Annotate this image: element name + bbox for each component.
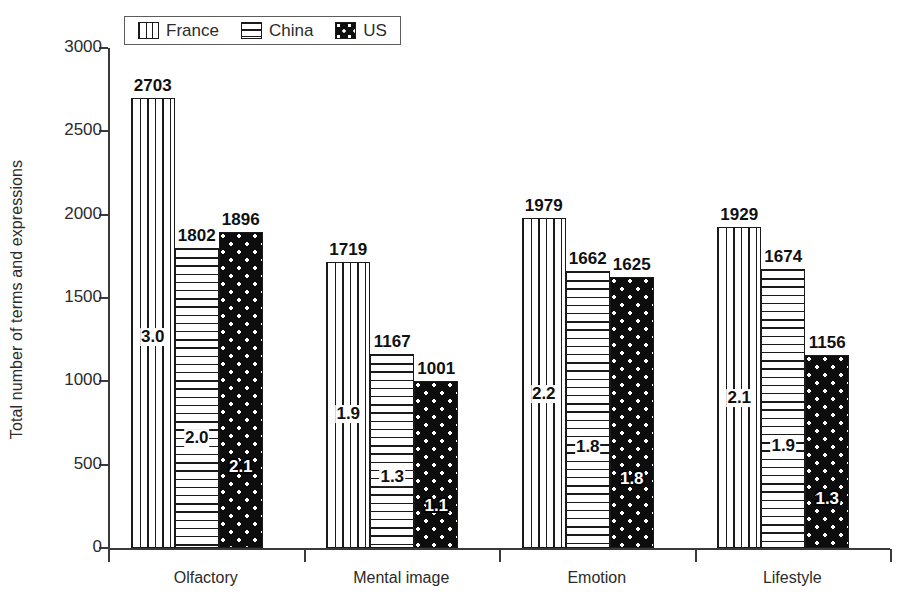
bar-us-lifestyle[interactable]: 11561.3 [805, 355, 849, 548]
bar-china-lifestyle[interactable]: 16741.9 [761, 269, 805, 548]
x-axis-label-lifestyle: Lifestyle [763, 569, 822, 587]
y-axis-tick-label: 1000 [64, 370, 102, 390]
bar-ratio-label: 2.1 [726, 389, 752, 407]
bar-ratio-label: 2.0 [184, 429, 210, 447]
bar-value-label: 1001 [417, 359, 455, 379]
bar-value-label: 1929 [720, 205, 758, 225]
bar-france-lifestyle[interactable]: 19292.1 [717, 227, 761, 549]
horizontal-stripes-icon [241, 22, 262, 39]
bar-ratio-label: 1.9 [770, 437, 796, 455]
x-axis-tick-mark [304, 549, 306, 562]
bar-france-mental-image[interactable]: 17191.9 [326, 262, 370, 549]
x-axis-label-mental-image: Mental image [353, 569, 449, 587]
bar-us-mental-image[interactable]: 10011.1 [414, 381, 458, 548]
y-axis-tick-label: 1500 [64, 287, 102, 307]
x-axis-tick-mark [108, 549, 110, 562]
bar-value-label: 1979 [525, 196, 563, 216]
bar-chart: Total number of terms and expressions 05… [0, 0, 904, 599]
bar-china-olfactory[interactable]: 18022.0 [175, 248, 219, 548]
bar-china-mental-image[interactable]: 11671.3 [370, 354, 414, 549]
bar-france-olfactory[interactable]: 27033.0 [131, 98, 175, 549]
y-axis-line [108, 48, 110, 548]
x-axis-label-olfactory: Olfactory [174, 569, 238, 587]
bar-ratio-label: 2.2 [531, 385, 557, 403]
bar-ratio-label: 1.3 [814, 490, 840, 508]
legend-entry-france[interactable]: France [138, 21, 219, 41]
bar-value-label: 2703 [134, 76, 172, 96]
bar-value-label: 1674 [764, 247, 802, 267]
bar-value-label: 1896 [222, 210, 260, 230]
bar-ratio-label: 1.8 [619, 470, 645, 488]
vertical-stripes-icon [138, 22, 159, 39]
bar-ratio-label: 3.0 [140, 328, 166, 346]
chart-legend: FranceChinaUS [124, 16, 401, 45]
bar-us-emotion[interactable]: 16251.8 [610, 277, 654, 548]
bar-value-label: 1662 [569, 249, 607, 269]
bar-value-label: 1167 [374, 332, 411, 352]
legend-entry-us[interactable]: US [335, 21, 387, 41]
bar-us-olfactory[interactable]: 18962.1 [219, 232, 263, 548]
x-axis-tick-mark [695, 549, 697, 562]
bar-ratio-label: 2.1 [228, 458, 254, 476]
bar-value-label: 1625 [613, 255, 651, 275]
y-axis-tick-label: 0 [93, 537, 102, 557]
y-axis-tick-label: 2500 [64, 120, 102, 140]
legend-entry-china[interactable]: China [241, 21, 313, 41]
bar-ratio-label: 1.1 [423, 497, 449, 515]
legend-label: China [269, 21, 313, 41]
bar-value-label: 1802 [178, 226, 216, 246]
y-axis-tick-label: 2000 [64, 204, 102, 224]
plot-area: 050010001500200025003000 27033.018022.01… [108, 48, 890, 548]
bar-value-label: 1719 [329, 240, 367, 260]
bar-ratio-label: 1.8 [575, 438, 601, 456]
bar-france-emotion[interactable]: 19792.2 [522, 218, 566, 548]
legend-label: France [166, 21, 219, 41]
x-axis-label-emotion: Emotion [567, 569, 626, 587]
x-axis-tick-mark [890, 549, 892, 562]
black-dots-icon [335, 22, 356, 39]
x-axis-tick-mark [499, 549, 501, 562]
bar-value-label: 1156 [809, 333, 846, 353]
bar-ratio-label: 1.9 [335, 405, 361, 423]
y-axis-tick-label: 3000 [64, 37, 102, 57]
legend-label: US [363, 21, 387, 41]
y-axis-title: Total number of terms and expressions [0, 0, 34, 599]
y-axis-tick-label: 500 [74, 454, 102, 474]
bar-china-emotion[interactable]: 16621.8 [566, 271, 610, 548]
bar-ratio-label: 1.3 [379, 468, 405, 486]
